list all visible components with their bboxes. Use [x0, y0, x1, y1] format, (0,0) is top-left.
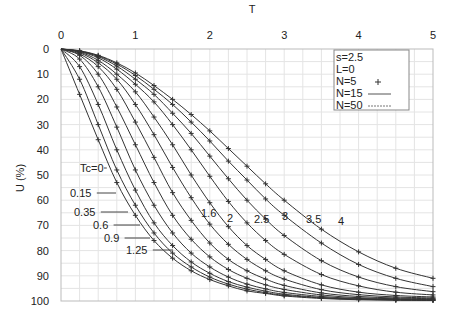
- y-tick-label: 10: [37, 68, 49, 80]
- curve-label: 4: [338, 215, 344, 227]
- curve-label: 2: [227, 212, 233, 224]
- curve-label: 0.9: [104, 232, 119, 244]
- y-axis-ticks: 0102030405060708090100: [31, 43, 49, 307]
- curve-label: Tc=0: [80, 162, 104, 174]
- legend-n50: N=50: [336, 99, 363, 111]
- x-tick-label: 2: [207, 29, 213, 41]
- y-tick-label: 80: [37, 245, 49, 257]
- legend-n5: N=5: [336, 75, 357, 87]
- x-tick-label: 1: [132, 29, 138, 41]
- curve-label: 3.5: [306, 213, 321, 225]
- legend-s: s=2.5: [336, 51, 363, 63]
- x-tick-label: 5: [430, 29, 436, 41]
- y-axis-label: U (%): [14, 164, 26, 192]
- legend-n15: N=15: [336, 87, 363, 99]
- curve-label: 3: [282, 210, 288, 222]
- curve-label: 1.6: [201, 207, 216, 219]
- curve-label: 1.25: [126, 244, 147, 256]
- x-tick-label: 0: [58, 29, 64, 41]
- curve-label: 0.35: [74, 206, 95, 218]
- y-tick-label: 60: [37, 194, 49, 206]
- curve-label: 0.6: [93, 219, 108, 231]
- legend: s=2.5 L=0 N=5 N=15 N=50: [334, 50, 409, 111]
- y-tick-label: 40: [37, 144, 49, 156]
- legend-l: L=0: [336, 63, 355, 75]
- y-tick-label: 20: [37, 93, 49, 105]
- y-tick-label: 100: [31, 295, 49, 307]
- x-axis-label: T: [249, 3, 256, 15]
- y-tick-label: 30: [37, 119, 49, 131]
- y-tick-label: 70: [37, 219, 49, 231]
- curve-label: 0.15: [70, 187, 91, 199]
- x-axis-ticks: 012345: [58, 29, 436, 41]
- curve-label: 2.5: [254, 213, 269, 225]
- x-tick-label: 4: [356, 29, 362, 41]
- y-tick-label: 0: [43, 43, 49, 55]
- y-tick-label: 50: [37, 169, 49, 181]
- y-tick-label: 90: [37, 270, 49, 282]
- chart-canvas: 012345 0102030405060708090100 T U (%) Tc…: [0, 0, 460, 327]
- x-tick-label: 3: [281, 29, 287, 41]
